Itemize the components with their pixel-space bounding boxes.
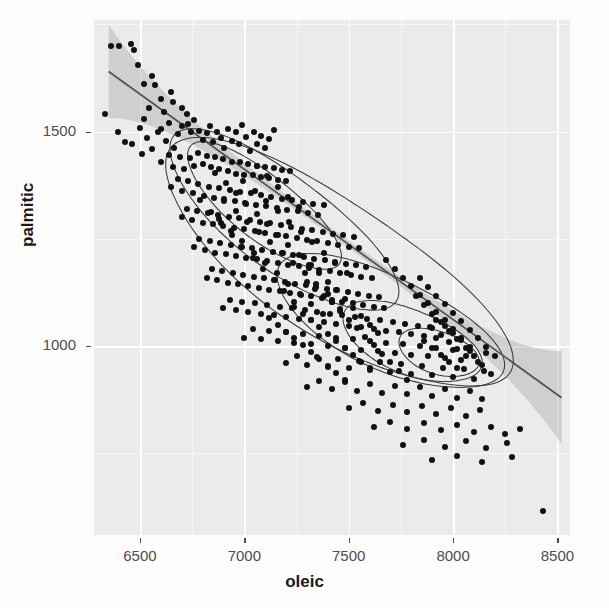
data-point bbox=[115, 129, 121, 135]
data-point bbox=[325, 331, 331, 337]
x-tickmark-7500 bbox=[349, 538, 350, 543]
data-point bbox=[461, 366, 467, 372]
data-point bbox=[241, 172, 247, 178]
data-point bbox=[285, 194, 291, 200]
data-point bbox=[325, 240, 331, 246]
overlay-layer bbox=[94, 20, 570, 535]
data-point bbox=[247, 148, 253, 154]
data-point bbox=[408, 371, 414, 377]
y-axis-title: palmitic bbox=[18, 183, 38, 247]
data-point bbox=[321, 250, 327, 256]
scatter-plot-figure: 65007000750080008500 10001500 oleic palm… bbox=[0, 0, 609, 608]
data-point bbox=[200, 161, 206, 167]
data-point bbox=[367, 381, 373, 387]
data-point bbox=[383, 340, 389, 346]
data-point bbox=[419, 403, 425, 409]
data-point bbox=[241, 335, 247, 341]
data-point bbox=[286, 219, 292, 225]
data-point bbox=[433, 317, 439, 323]
data-point bbox=[344, 270, 350, 276]
data-point bbox=[200, 137, 206, 143]
data-point bbox=[454, 346, 460, 352]
data-point bbox=[320, 229, 326, 235]
data-point bbox=[352, 314, 358, 320]
x-tick-label-8000: 8000 bbox=[413, 547, 493, 564]
data-point bbox=[463, 413, 469, 419]
data-point bbox=[232, 198, 238, 204]
data-point bbox=[225, 280, 231, 286]
data-point bbox=[239, 244, 245, 250]
data-point bbox=[240, 178, 246, 184]
data-point bbox=[294, 353, 300, 359]
data-point bbox=[509, 454, 515, 460]
data-point bbox=[446, 359, 452, 365]
data-point bbox=[346, 244, 352, 250]
data-point bbox=[275, 260, 281, 266]
data-point bbox=[131, 47, 137, 53]
data-point bbox=[467, 344, 473, 350]
data-point bbox=[179, 105, 185, 111]
data-point bbox=[296, 252, 302, 258]
data-point bbox=[144, 135, 150, 141]
data-point bbox=[227, 187, 233, 193]
data-point bbox=[488, 371, 494, 377]
data-point bbox=[274, 270, 280, 276]
data-point bbox=[229, 159, 235, 165]
data-point bbox=[355, 291, 361, 297]
data-point bbox=[448, 405, 454, 411]
data-point bbox=[442, 444, 448, 450]
data-point bbox=[141, 116, 147, 122]
data-point bbox=[275, 177, 281, 183]
data-point bbox=[296, 263, 302, 269]
x-tickmark-7000 bbox=[244, 538, 245, 543]
data-point bbox=[116, 43, 122, 49]
data-point bbox=[467, 327, 473, 333]
data-point bbox=[191, 117, 197, 123]
data-point bbox=[188, 129, 194, 135]
data-point bbox=[266, 287, 272, 293]
data-point bbox=[214, 129, 220, 135]
data-point bbox=[438, 352, 444, 358]
y-tick-label-1500: 1500 bbox=[4, 122, 76, 139]
data-point bbox=[366, 293, 372, 299]
density-contour-outer bbox=[166, 137, 514, 386]
data-point bbox=[354, 388, 360, 394]
data-point bbox=[228, 242, 234, 248]
data-point bbox=[275, 232, 281, 238]
data-point bbox=[163, 138, 169, 144]
data-point bbox=[492, 353, 498, 359]
data-point bbox=[250, 326, 256, 332]
x-axis-title: oleic bbox=[0, 572, 609, 592]
data-point bbox=[415, 323, 421, 329]
data-point bbox=[175, 176, 181, 182]
data-point bbox=[135, 62, 141, 68]
data-point bbox=[304, 384, 310, 390]
data-point bbox=[383, 328, 389, 334]
data-point bbox=[390, 402, 396, 408]
data-point bbox=[170, 99, 176, 105]
data-point bbox=[285, 242, 291, 248]
data-point bbox=[275, 184, 281, 190]
data-point bbox=[358, 347, 364, 353]
data-point bbox=[218, 135, 224, 141]
data-point bbox=[442, 386, 448, 392]
data-point bbox=[488, 424, 494, 430]
data-point bbox=[392, 383, 398, 389]
data-point bbox=[425, 284, 431, 290]
data-point bbox=[304, 362, 310, 368]
data-point bbox=[417, 292, 423, 298]
data-point bbox=[252, 188, 258, 194]
data-point bbox=[342, 377, 348, 383]
data-point bbox=[275, 338, 281, 344]
data-point bbox=[175, 131, 181, 137]
data-point bbox=[350, 305, 356, 311]
data-point bbox=[379, 351, 385, 357]
data-point bbox=[179, 188, 185, 194]
data-point bbox=[194, 208, 200, 214]
data-point bbox=[345, 289, 351, 295]
data-point bbox=[158, 159, 164, 165]
data-point bbox=[283, 178, 289, 184]
data-point bbox=[310, 201, 316, 207]
data-point bbox=[250, 255, 256, 261]
data-point bbox=[304, 279, 310, 285]
